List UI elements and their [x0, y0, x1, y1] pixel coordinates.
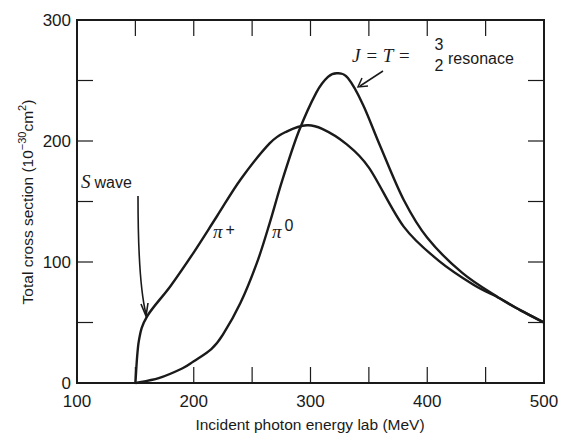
svg-text:2: 2 [435, 57, 444, 74]
y-tick-label: 200 [43, 132, 71, 151]
x-tick-label: 400 [413, 392, 441, 411]
resonance-annotation: J = T = 3 2 resonace [352, 36, 514, 87]
pi-zero-label: π0 [272, 217, 294, 242]
y-tick-label: 100 [43, 253, 71, 272]
resonance-arrow [360, 71, 383, 86]
svg-text:Swave: Swave [81, 171, 132, 192]
svg-text:resonace: resonace [448, 50, 514, 67]
data-curves [135, 73, 544, 383]
plot-axes [77, 20, 544, 383]
x-tick-label: 500 [530, 392, 558, 411]
axis-ticks: 1002003004005000100200300 [43, 11, 559, 411]
pi-zero-curve [135, 73, 544, 383]
plot-frame [77, 20, 544, 383]
s-wave-annotation: Swave [81, 171, 148, 316]
svg-text:J = T =: J = T = [352, 45, 411, 66]
y-tick-label: 0 [62, 374, 71, 393]
x-tick-label: 200 [180, 392, 208, 411]
x-tick-label: 300 [296, 392, 324, 411]
y-tick-label: 300 [43, 11, 71, 30]
pi-plus-curve [135, 125, 544, 383]
s-wave-arrow [138, 196, 146, 314]
svg-text:3: 3 [435, 36, 444, 53]
cross-section-chart: 1002003004005000100200300 Total cross se… [0, 0, 569, 447]
pi-plus-label: π+ [213, 221, 235, 242]
x-axis-title: Incident photon energy lab (MeV) [195, 416, 424, 433]
x-tick-label: 100 [63, 392, 91, 411]
y-axis-title: Total cross section (10−30cm2) [16, 100, 36, 305]
